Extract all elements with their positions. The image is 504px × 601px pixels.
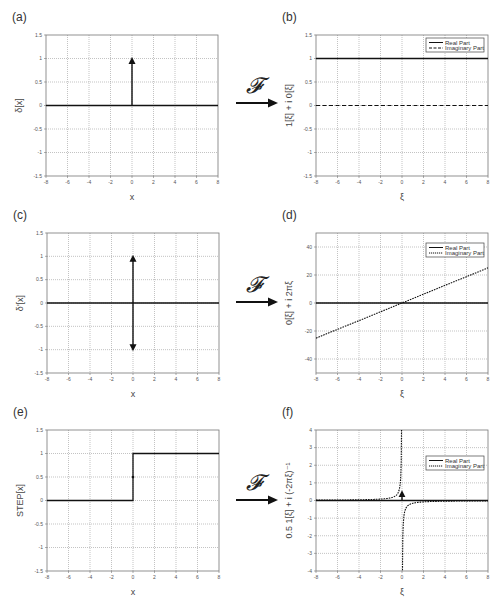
x-tick-label: -4 [88,376,93,382]
fourier-transform-figure: (a)-8-6-4-202468-1.5-1-0.500.511.5xδ[x](… [0,0,504,601]
y-tick-label: -0.5 [33,126,42,132]
y-tick-label: 0 [309,300,312,306]
x-tick-label: 4 [175,574,178,580]
x-tick-label: 2 [153,376,156,382]
y-tick-label: -0.5 [34,323,43,329]
y-tick-label: 0 [40,300,43,306]
x-tick-label: -2 [378,376,383,382]
x-tick-label: -6 [335,179,340,185]
x-axis-label: ξ [400,192,404,202]
fourier-transform-arrow: 𝓕 [236,470,278,505]
chart-panel-c: (c)-8-6-4-202468-1.5-1-0.500.511.5xδ'[x] [13,208,221,399]
x-tick-label: -4 [357,574,362,580]
x-tick-label: -6 [66,376,71,382]
chart-panel-b: (b)-8-6-4-202468-1.5-1-0.500.511.5ξ1[ξ] … [282,10,490,202]
x-tick-label: 2 [422,179,425,185]
x-tick-label: 2 [152,179,155,185]
x-tick-label: 4 [174,179,177,185]
y-tick-label: -1.5 [34,370,43,376]
y-tick-label: 0 [40,497,43,503]
x-axis-label: x [131,587,136,597]
y-axis-label: 1[ξ] + i 0[ξ] [284,84,294,127]
y-tick-label: -2 [308,533,313,539]
midpoint-dot [132,476,135,479]
x-tick-label: -6 [65,179,70,185]
x-tick-label: 0 [132,574,135,580]
y-tick-label: 1 [309,480,312,486]
x-tick-label: -6 [335,376,340,382]
fourier-transform-arrow: 𝓕 [236,272,278,307]
x-axis-label: x [131,389,136,399]
legend: Real PartImaginary Part [426,456,484,470]
x-tick-label: 6 [196,376,199,382]
chart-panel-d: (d)-8-6-4-202468-40-2002040ξ0[ξ] + i 2πξ… [282,208,490,399]
y-tick-label: 1 [309,55,312,61]
y-tick-label: 1 [40,450,43,456]
y-tick-label: -1.5 [33,173,42,179]
x-tick-label: 6 [195,179,198,185]
fourier-script-f-icon: 𝓕 [246,272,270,297]
x-tick-label: 0 [401,179,404,185]
x-tick-label: -2 [109,376,114,382]
x-tick-label: -8 [314,179,319,185]
x-tick-label: -4 [357,376,362,382]
y-tick-label: 1 [40,253,43,259]
x-tick-label: 8 [487,179,490,185]
x-tick-label: -4 [88,574,93,580]
y-tick-label: -4 [308,568,313,574]
y-tick-label: 0.5 [36,276,43,282]
x-tick-label: 2 [422,574,425,580]
x-tick-label: -2 [108,179,113,185]
y-axis-label: 0.5 1[ξ] + i (-2πξ)⁻¹ [284,462,294,538]
y-tick-label: 1 [39,55,42,61]
x-tick-label: -8 [44,179,49,185]
x-tick-label: -8 [314,376,319,382]
y-tick-label: -0.5 [34,521,43,527]
panel-label: (a) [12,10,27,24]
y-tick-label: -1 [38,149,43,155]
y-tick-label: 2 [309,462,312,468]
chart-panel-a: (a)-8-6-4-202468-1.5-1-0.500.511.5xδ[x] [12,10,220,202]
y-axis-label: 0[ξ] + i 2πξ [284,281,294,325]
x-tick-label: -8 [45,574,50,580]
x-tick-label: 8 [487,376,490,382]
y-axis-label: δ[x] [14,98,24,113]
fourier-script-f-icon: 𝓕 [246,470,270,495]
x-tick-label: -8 [45,376,50,382]
x-axis-label: ξ [400,587,404,597]
x-tick-label: 6 [465,179,468,185]
x-tick-label: -4 [87,179,92,185]
x-tick-label: 4 [444,574,447,580]
y-axis-label: STEP[x] [15,484,25,517]
chart-panel-f: (f)-8-6-4-202468-4-3-2-101234ξ0.5 1[ξ] +… [282,405,490,597]
y-tick-label: 1.5 [36,230,43,236]
y-tick-label: -1 [39,544,44,550]
y-tick-label: 3 [309,444,312,450]
panel-label: (e) [13,405,28,419]
y-tick-label: -1 [308,515,313,521]
y-tick-label: -1 [308,149,313,155]
panel-label: (f) [282,405,293,419]
x-tick-label: 0 [132,376,135,382]
y-axis-label: δ'[x] [15,295,25,311]
x-tick-label: 0 [131,179,134,185]
panel-label: (d) [282,208,297,222]
y-tick-label: 20 [306,272,312,278]
x-tick-label: 8 [218,574,221,580]
x-tick-label: 2 [422,376,425,382]
y-tick-label: 1.5 [36,427,43,433]
x-tick-label: 4 [175,376,178,382]
legend-entry-imaginary-part: Imaginary Part [445,250,484,256]
x-tick-label: 8 [487,574,490,580]
y-tick-label: 1.5 [35,32,42,38]
x-tick-label: 6 [196,574,199,580]
y-tick-label: -3 [308,550,313,556]
legend-entry-imaginary-part: Imaginary Part [445,45,484,51]
fourier-script-f-icon: 𝓕 [246,73,270,98]
x-tick-label: -6 [66,574,71,580]
x-tick-label: 6 [465,574,468,580]
chart-panel-e: (e)-8-6-4-202468-1.5-1-0.500.511.5xSTEP[… [13,405,221,597]
legend: Real PartImaginary Part [426,243,484,257]
x-tick-label: 6 [465,376,468,382]
x-axis-label: x [130,192,135,202]
